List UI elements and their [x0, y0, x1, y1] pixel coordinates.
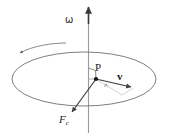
- rotation-direction-arc: [20, 43, 66, 53]
- point-p-label: P: [95, 62, 101, 73]
- omega-label: ω: [65, 15, 73, 25]
- angle-guide-line-b: [122, 88, 133, 95]
- diagram-canvas: [0, 0, 169, 136]
- angle-label: θ: [104, 83, 106, 88]
- disc-ellipse: [12, 52, 156, 106]
- point-p-marker: [94, 77, 98, 81]
- force-subscript: c: [66, 119, 69, 127]
- centripetal-force-vector: [72, 79, 96, 112]
- velocity-vector: [96, 79, 131, 87]
- circular-motion-diagram: ω P v Fc θ: [0, 0, 169, 136]
- velocity-label: v: [117, 71, 123, 82]
- centripetal-force-label: Fc: [59, 114, 69, 127]
- force-symbol: F: [59, 113, 66, 125]
